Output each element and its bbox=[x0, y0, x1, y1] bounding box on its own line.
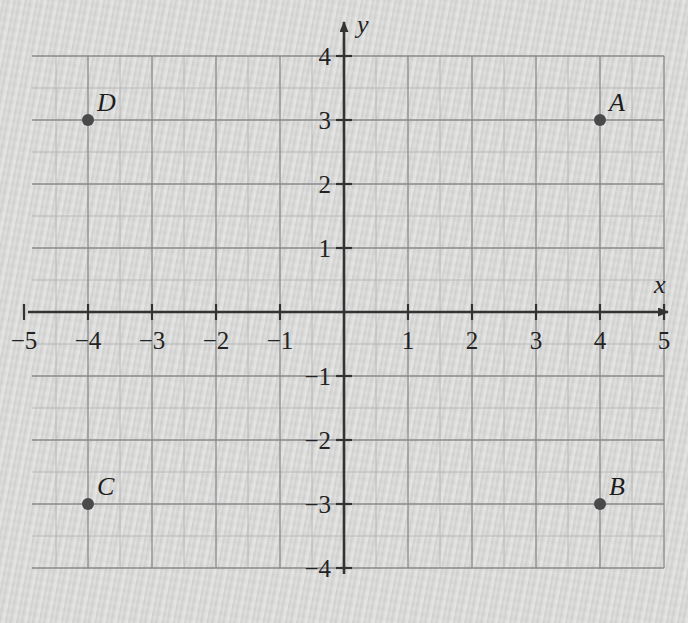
x-tick-label: −3 bbox=[139, 328, 166, 353]
point-label-a: A bbox=[609, 90, 625, 116]
axis-lines bbox=[28, 22, 668, 574]
y-tick-label: 2 bbox=[319, 172, 332, 197]
x-tick-label: 1 bbox=[402, 328, 415, 353]
y-tick-label: 4 bbox=[319, 44, 332, 69]
x-axis-label: x bbox=[654, 272, 666, 298]
x-tick-label: 5 bbox=[658, 328, 671, 353]
y-tick-label: −4 bbox=[304, 556, 331, 581]
x-tick-label: −2 bbox=[203, 328, 230, 353]
plotted-point bbox=[82, 498, 94, 510]
x-tick-label: 2 bbox=[466, 328, 479, 353]
point-label-c: C bbox=[97, 474, 114, 500]
y-tick-label: 3 bbox=[319, 108, 332, 133]
plotted-point bbox=[82, 114, 94, 126]
x-tick-label: −1 bbox=[267, 328, 294, 353]
y-tick-label: −1 bbox=[304, 364, 331, 389]
y-tick-label: 1 bbox=[319, 236, 332, 261]
coordinate-plane-figure: · · · −5−4−3−2−1123454321−1−2−3−4 ABCD x… bbox=[0, 0, 688, 623]
point-label-b: B bbox=[609, 474, 625, 500]
y-tick-label: −2 bbox=[304, 428, 331, 453]
point-label-d: D bbox=[97, 90, 116, 116]
plotted-point bbox=[594, 498, 606, 510]
x-tick-label: −5 bbox=[11, 328, 38, 353]
x-tick-label: 3 bbox=[530, 328, 543, 353]
x-tick-label: −4 bbox=[75, 328, 102, 353]
plotted-point bbox=[594, 114, 606, 126]
y-axis-label: y bbox=[357, 12, 369, 38]
y-tick-label: −3 bbox=[304, 492, 331, 517]
x-tick-label: 4 bbox=[594, 328, 607, 353]
